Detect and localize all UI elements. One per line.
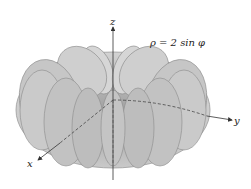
x-axis-label: x (27, 158, 33, 169)
spherical-surface-diagram: z y x ρ = 2 sin φ (0, 0, 251, 189)
z-axis-label: z (109, 16, 116, 27)
y-axis (207, 116, 232, 120)
equation-label: ρ = 2 sin φ (149, 37, 205, 48)
y-axis-label: y (233, 115, 240, 126)
